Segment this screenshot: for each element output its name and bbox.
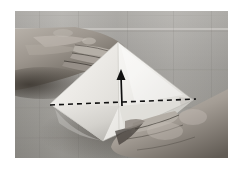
origami-step-photo	[15, 11, 228, 158]
photo-canvas	[15, 11, 228, 158]
page-root: Two hands holding a diamond-shaped sheet…	[0, 0, 243, 169]
arrow-shaft	[121, 76, 122, 106]
